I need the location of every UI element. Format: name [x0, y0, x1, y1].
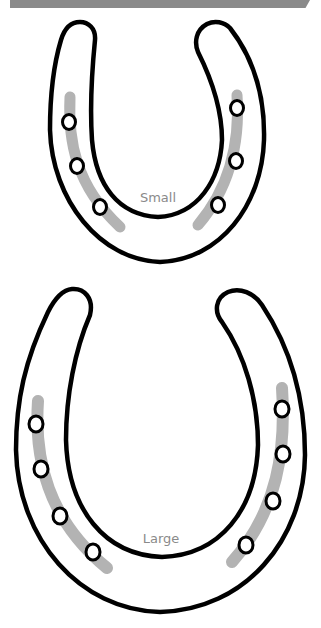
nail-hole-icon: [71, 159, 84, 174]
nail-hole-icon: [34, 461, 48, 477]
nail-hole-icon: [275, 401, 289, 417]
large-horseshoe: [16, 289, 305, 612]
nail-hole-icon: [230, 154, 243, 169]
nail-hole-icon: [29, 416, 43, 432]
nail-hole-icon: [63, 115, 76, 130]
nail-hole-icon: [212, 198, 225, 213]
nail-hole-icon: [53, 508, 67, 524]
large-label: Large: [121, 531, 201, 546]
nail-hole-icon: [276, 446, 290, 462]
nail-hole-icon: [86, 544, 100, 560]
nail-hole-icon: [231, 101, 244, 116]
small-horseshoe: [50, 22, 264, 262]
large-horseshoe-outline: [16, 289, 305, 612]
small-label: Small: [118, 190, 198, 205]
nail-hole-icon: [266, 493, 280, 509]
nail-hole-icon: [239, 537, 253, 553]
nail-hole-icon: [94, 200, 107, 215]
